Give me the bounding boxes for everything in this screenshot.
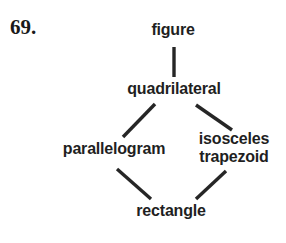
node-quadrilateral: quadrilateral: [31, 79, 286, 98]
edge-quadrilateral-parallelogram: [123, 104, 155, 137]
node-rectangle: rectangle: [126, 201, 216, 220]
edge-parallelogram-rectangle: [117, 169, 151, 199]
node-isosceles-trapezoid: isosceles trapezoid: [188, 130, 280, 166]
node-isosceles-trapezoid-line1: isosceles: [188, 130, 280, 148]
edge-quadrilateral-isosceles-trapezoid: [196, 105, 232, 130]
diagram-page: 69. figure quadrilateral parallelogram i…: [0, 0, 286, 243]
node-isosceles-trapezoid-line2: trapezoid: [188, 148, 280, 166]
edge-isosceles-trapezoid-rectangle: [196, 171, 226, 199]
node-figure: figure: [30, 20, 286, 39]
node-parallelogram: parallelogram: [52, 139, 176, 158]
